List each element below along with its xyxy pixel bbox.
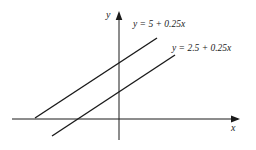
line-label-upper: y = 5 + 0.25x [133,20,185,30]
graph-figure: y x y = 5 + 0.25x y = 2.5 + 0.25x [0,0,256,150]
plot-canvas [0,0,256,150]
line-label-lower: y = 2.5 + 0.25x [172,44,231,54]
y-axis-label: y [106,10,110,20]
line-series-1 [35,38,157,118]
x-axis-label: x [231,123,235,133]
y-axis-arrowhead [116,11,123,20]
